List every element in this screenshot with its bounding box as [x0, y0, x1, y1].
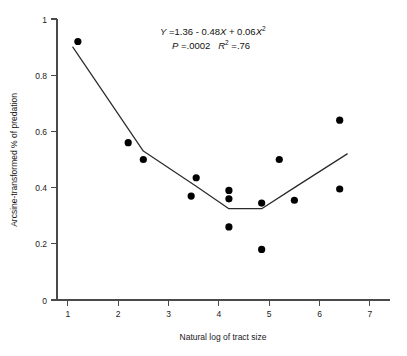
r-value: =.76 — [229, 40, 250, 51]
axes-group — [57, 19, 390, 300]
data-point — [74, 38, 81, 45]
data-point — [225, 223, 232, 230]
x-tick-label-4: 4 — [216, 309, 221, 319]
y-tick-label-1: 1 — [42, 15, 47, 25]
data-point — [193, 174, 200, 181]
x-axis-title: Natural log of tract size — [180, 332, 267, 342]
equation-body: =1.36 - 0.48 — [166, 26, 220, 37]
data-point — [276, 156, 283, 163]
x-tick-label-6: 6 — [317, 309, 322, 319]
x-axis-tick-labels: 1 2 3 4 5 6 7 — [65, 309, 372, 319]
y-tick-label-0: 0 — [42, 296, 47, 306]
y-tick-label-0.2: 0.2 — [35, 239, 47, 249]
y-axis-title: Arcsine-transformed % of predation — [9, 93, 19, 227]
y-axis-ticks — [51, 19, 57, 300]
data-point — [188, 192, 195, 199]
data-points-group — [74, 38, 343, 253]
scatter-plot: 1 0.8 0.6 0.4 0.2 0 1 2 3 4 5 6 7 Nat — [0, 0, 407, 356]
data-point — [291, 197, 298, 204]
y-axis-tick-labels: 1 0.8 0.6 0.4 0.2 0 — [35, 15, 47, 306]
y-tick-label-0.4: 0.4 — [35, 183, 47, 193]
regression-fit-curve — [73, 47, 347, 209]
x-tick-label-7: 7 — [368, 309, 373, 319]
x-tick-label-5: 5 — [267, 309, 272, 319]
data-point — [336, 117, 343, 124]
data-point — [140, 156, 147, 163]
x-tick-label-2: 2 — [116, 309, 121, 319]
figure-container: 1 0.8 0.6 0.4 0.2 0 1 2 3 4 5 6 7 Nat — [0, 0, 407, 356]
x-tick-label-3: 3 — [166, 309, 171, 319]
data-point — [258, 199, 265, 206]
stats-line: P =.0002 R2 =.76 — [172, 39, 250, 51]
data-point — [336, 185, 343, 192]
data-point — [258, 246, 265, 253]
x-tick-label-1: 1 — [65, 309, 70, 319]
y-tick-label-0.8: 0.8 — [35, 71, 47, 81]
data-point — [225, 195, 232, 202]
regression-annotation: Y =1.36 - 0.48X + 0.06X2 P =.0002 R2 =.7… — [160, 25, 266, 51]
equation-plus-term: + 0.06 — [226, 26, 255, 37]
equation-exponent: 2 — [262, 25, 266, 32]
data-point — [125, 139, 132, 146]
data-point — [225, 187, 232, 194]
y-tick-label-0.6: 0.6 — [35, 127, 47, 137]
stats-spacer — [210, 40, 218, 51]
equation-line: Y =1.36 - 0.48X + 0.06X2 — [160, 25, 266, 37]
x-axis-ticks — [68, 300, 370, 306]
p-value: =.0002 — [178, 40, 210, 51]
